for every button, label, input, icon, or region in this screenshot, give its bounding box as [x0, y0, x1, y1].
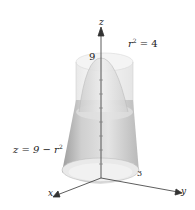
z-axis-label: z	[99, 18, 104, 27]
figure: z 9 r2 = 4 z = 9 − r2 3 x y	[0, 0, 195, 210]
cylinder-eq-rest: = 4	[137, 38, 158, 49]
z-axis-arrow-icon	[98, 27, 104, 36]
x-axis-arrow-icon	[53, 191, 60, 197]
z-intercept-label: 9	[89, 52, 95, 62]
y-axis	[101, 178, 178, 192]
solid-region	[62, 100, 139, 184]
paraboloid-equation: z = 9 − r2	[13, 144, 63, 155]
y-axis-label: y	[181, 187, 186, 196]
y-tick-label: 3	[137, 170, 142, 178]
cylinder-equation: r2 = 4	[128, 38, 158, 49]
x-axis-label: x	[48, 189, 53, 198]
paraboloid-eq-exponent: 2	[59, 143, 63, 150]
x-axis	[57, 178, 101, 195]
diagram-svg	[0, 0, 195, 210]
paraboloid-eq-base: z = 9 − r	[13, 144, 59, 155]
